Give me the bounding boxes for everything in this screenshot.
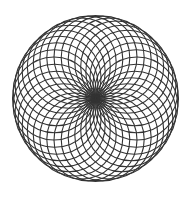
circle-rosette-canvas	[0, 0, 194, 198]
circle-group	[13, 16, 179, 182]
